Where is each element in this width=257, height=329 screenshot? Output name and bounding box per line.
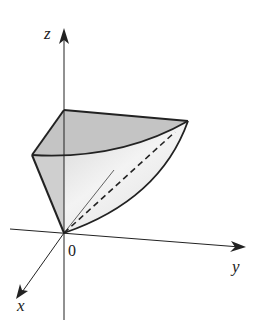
diagram: z y x 0 (0, 0, 257, 329)
y-axis (10, 229, 240, 247)
z-axis-label: z (43, 24, 51, 43)
x-axis (20, 233, 64, 295)
y-axis-label: y (230, 257, 240, 276)
origin-label: 0 (68, 242, 76, 259)
x-axis-label: x (16, 296, 25, 315)
